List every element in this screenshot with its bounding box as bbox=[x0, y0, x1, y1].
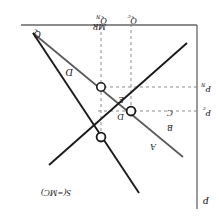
point-c-label: C bbox=[167, 108, 173, 117]
point-e-label: E bbox=[119, 95, 125, 104]
demand-curve-label: D bbox=[66, 67, 73, 77]
qc-base: Q bbox=[131, 16, 138, 26]
qn-base: Q bbox=[101, 16, 108, 26]
point-a-label: A bbox=[151, 142, 157, 151]
point-a-marker bbox=[97, 83, 105, 91]
point-b-label: B bbox=[168, 123, 174, 132]
point-d-label: D bbox=[118, 112, 125, 121]
qn-tick-label: QN bbox=[96, 14, 107, 25]
figure-canvas: Q P D MR S(=MC) Qc QN Pc PN A B C bbox=[0, 0, 219, 221]
rotated-figure-group: Q P D MR S(=MC) Qc QN Pc PN A B C bbox=[0, 0, 219, 221]
demand-curve bbox=[33, 33, 183, 157]
point-n-marker bbox=[97, 133, 106, 142]
pn-subscript: N bbox=[201, 82, 205, 89]
qc-subscript: c bbox=[128, 14, 131, 21]
quantity-axis-label: Q bbox=[34, 29, 41, 39]
pc-subscript: c bbox=[203, 106, 206, 113]
supply-curve-label: S(=MC) bbox=[41, 188, 71, 197]
pn-tick-label: PN bbox=[201, 82, 211, 93]
price-axis-label: P bbox=[203, 195, 209, 205]
pn-base: P bbox=[206, 84, 212, 94]
qc-tick-label: Qc bbox=[128, 14, 137, 25]
pc-tick-label: Pc bbox=[203, 106, 211, 117]
pc-base: P bbox=[206, 108, 212, 118]
qn-subscript: N bbox=[96, 14, 100, 21]
point-e-marker bbox=[127, 107, 136, 116]
